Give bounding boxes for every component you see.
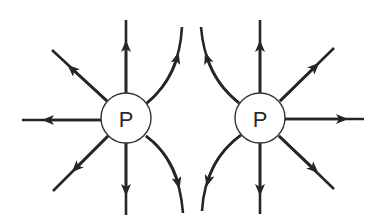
- right-charge: P: [235, 93, 285, 143]
- field-line-lower-right-curve: [146, 136, 183, 213]
- right-charge-label: P: [253, 107, 268, 132]
- field-line-upper-left-curve: [201, 27, 239, 103]
- field-line-upper-right-curve: [147, 27, 182, 103]
- field-line-lower-left-curve: [202, 135, 241, 211]
- left-charge-label: P: [119, 107, 134, 132]
- : [146, 136, 178, 183]
- field-lines-diagram: P P: [0, 0, 365, 224]
- left-charge: P: [101, 93, 151, 143]
